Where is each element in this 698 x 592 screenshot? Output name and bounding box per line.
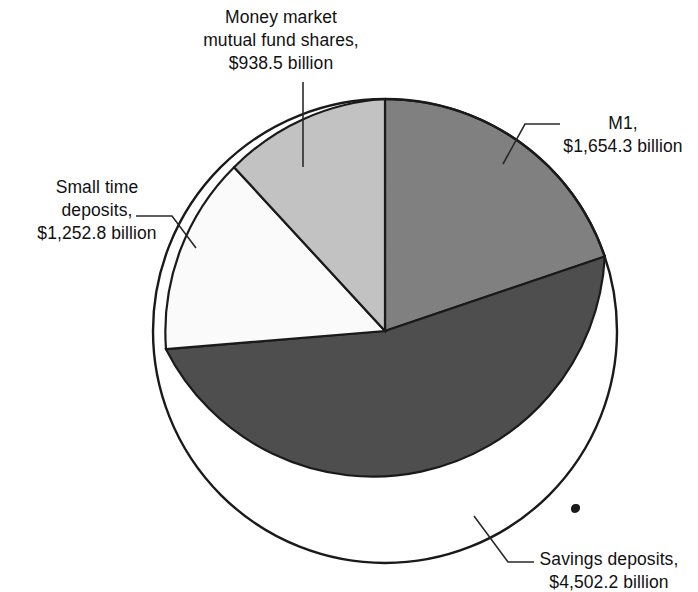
slice-label-small-time-deposits: Small time deposits, $1,252.8 billion [6, 176, 188, 245]
slice-label-money-market: Money market mutual fund shares, $938.5 … [150, 6, 412, 75]
pie-chart-page: Money market mutual fund shares, $938.5 … [0, 0, 698, 592]
slice-label-savings-deposits: Savings deposits, $4,502.2 billion [520, 548, 698, 592]
slice-label-m1: M1, $1,654.3 billion [548, 112, 698, 158]
pie-chart-figure [0, 0, 698, 592]
